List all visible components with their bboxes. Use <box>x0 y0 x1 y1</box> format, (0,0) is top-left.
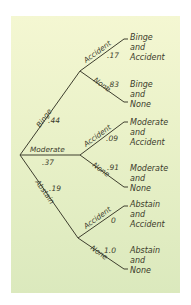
svg-text:Moderate: Moderate <box>130 118 168 127</box>
svg-text:None: None <box>130 100 151 109</box>
prob-moderate: .37 <box>42 158 54 167</box>
svg-text:and: and <box>130 128 146 137</box>
svg-text:Moderate: Moderate <box>130 164 168 173</box>
prob-binge: .44 <box>48 116 60 125</box>
abstain-accident-prob: 0 <box>111 216 116 225</box>
svg-text:and: and <box>130 210 146 219</box>
branch-label-moderate: Moderate <box>30 145 65 154</box>
probability-tree: Binge .44 Moderate .37 Abstain .19 Accid… <box>0 0 191 305</box>
abstain-accident-label: Accident <box>81 204 114 231</box>
svg-text:and: and <box>130 90 146 99</box>
outcome-binge-none: Binge and None <box>130 80 153 109</box>
svg-text:Binge: Binge <box>130 33 153 42</box>
tree-lines <box>20 39 128 269</box>
svg-text:and: and <box>130 174 146 183</box>
svg-text:and: and <box>130 43 146 52</box>
outcome-binge-accident: Binge and Accident <box>129 33 166 62</box>
svg-text:None: None <box>130 266 151 275</box>
outcome-moderate-none: Moderate and None <box>130 164 168 193</box>
binge-none-prob: .83 <box>107 80 119 89</box>
svg-text:and: and <box>130 256 146 265</box>
svg-text:Accident: Accident <box>129 220 166 229</box>
prob-abstain: .19 <box>49 184 61 193</box>
svg-text:Accident: Accident <box>129 138 166 147</box>
moderate-accident-prob: .09 <box>106 134 118 143</box>
outcome-moderate-accident: Moderate and Accident <box>129 118 168 147</box>
svg-text:Accident: Accident <box>129 53 166 62</box>
abstain-none-prob: 1.0 <box>104 246 116 255</box>
outcome-abstain-none: Abstain and None <box>129 246 160 275</box>
svg-text:Abstain: Abstain <box>129 200 160 209</box>
svg-text:None: None <box>130 184 151 193</box>
outcome-abstain-accident: Abstain and Accident <box>129 200 166 229</box>
binge-accident-prob: .17 <box>107 51 119 60</box>
svg-text:Abstain: Abstain <box>129 246 160 255</box>
svg-text:Binge: Binge <box>130 80 153 89</box>
moderate-none-prob: .91 <box>107 163 119 172</box>
